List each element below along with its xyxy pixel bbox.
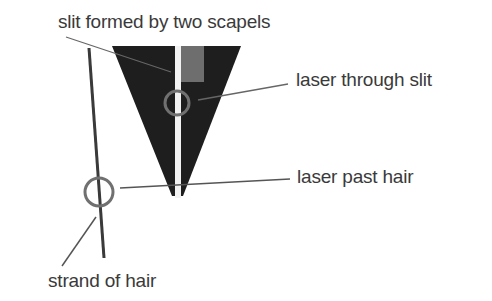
diagram-canvas: slit formed by two scapels laser through… — [0, 0, 492, 301]
label-slit: slit formed by two scapels — [58, 12, 270, 31]
label-laser-through-slit: laser through slit — [296, 70, 432, 89]
diagram-graphics — [0, 0, 492, 301]
slit-gap — [175, 46, 181, 198]
scalpel-blade-left — [112, 46, 175, 196]
leader-line-laser-hair — [120, 179, 290, 188]
label-strand-of-hair: strand of hair — [48, 271, 156, 290]
hair-strand — [89, 48, 104, 258]
label-laser-past-hair: laser past hair — [297, 167, 413, 186]
leader-line-hair — [62, 217, 96, 266]
blade-highlight — [181, 46, 204, 82]
